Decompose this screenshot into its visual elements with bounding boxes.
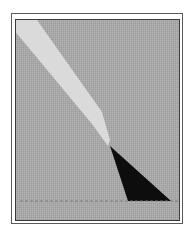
diagram-svg	[0, 0, 193, 235]
